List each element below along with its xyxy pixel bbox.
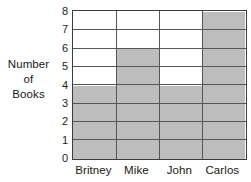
y-tick-label-2: 2	[54, 116, 68, 127]
bar-fill	[159, 86, 202, 159]
column-divider-2	[159, 11, 160, 159]
y-axis-title-line-3: Books	[0, 87, 57, 102]
x-axis-tick-labels: BritneyMikeJohnCarlos	[72, 163, 247, 179]
x-tick-label-britney: Britney	[72, 163, 115, 177]
y-tick-label-8: 8	[54, 6, 68, 17]
bar-chart: Number of Books 012345678 BritneyMikeJoh…	[0, 0, 251, 182]
y-axis-title-line-2: of	[0, 72, 57, 87]
column-divider-3	[202, 11, 203, 159]
plot-area	[72, 10, 247, 160]
bar-fill	[73, 86, 116, 159]
bar-fill	[202, 12, 245, 159]
y-tick-label-0: 0	[54, 153, 68, 164]
y-tick-label-6: 6	[54, 43, 68, 54]
y-tick-label-7: 7	[54, 24, 68, 35]
y-axis-title-line-1: Number	[0, 57, 57, 72]
x-tick-label-carlos: Carlos	[201, 163, 244, 177]
x-tick-label-john: John	[158, 163, 201, 177]
y-axis-title: Number of Books	[0, 57, 57, 102]
x-tick-label-mike: Mike	[115, 163, 158, 177]
column-divider-1	[116, 11, 117, 159]
y-tick-label-1: 1	[54, 135, 68, 146]
